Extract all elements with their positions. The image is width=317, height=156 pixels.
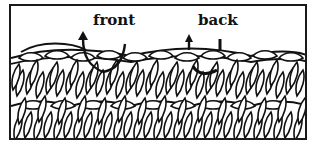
- back-label: back: [198, 13, 238, 28]
- top-chain-row: [11, 44, 307, 65]
- diagram-frame: front back: [9, 4, 307, 140]
- front-label: front: [93, 13, 135, 28]
- crochet-stitch-illustration: [11, 6, 307, 140]
- upper-stitch-rows: [12, 60, 304, 98]
